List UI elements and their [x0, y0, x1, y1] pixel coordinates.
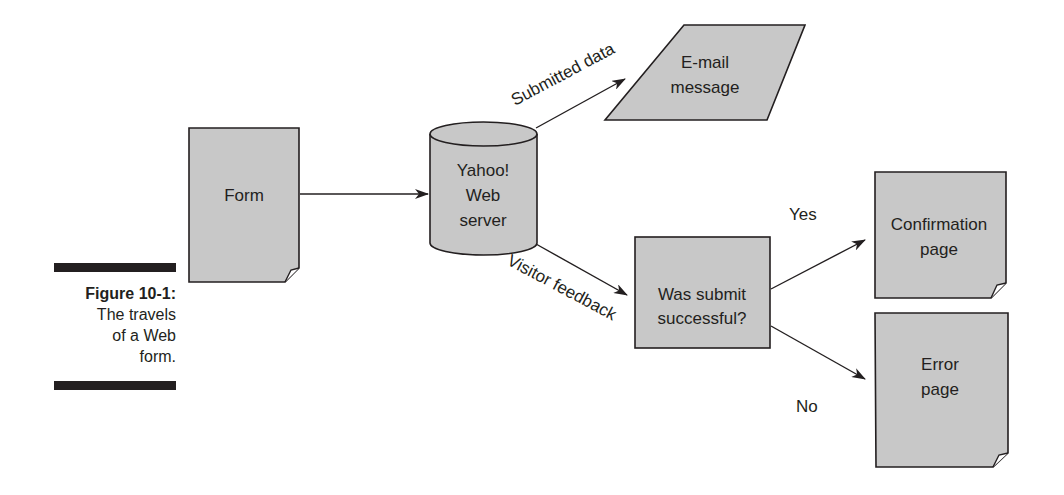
edge-label-submitted-data: Submitted data [508, 39, 618, 110]
server-node: Yahoo! Web server [430, 122, 537, 255]
server-label-line-2: Web [466, 186, 501, 205]
error-label-line-2: page [921, 380, 959, 399]
figure-caption: Figure 10-1: The travels of a Web form. [48, 263, 176, 390]
email-label-line-1: E-mail [681, 53, 729, 72]
caption-line-1: The travels [48, 304, 176, 325]
edge-label-no: No [796, 397, 818, 416]
email-label-line-2: message [671, 78, 740, 97]
server-label-line-3: server [459, 211, 507, 230]
decision-label-line-2: successful? [658, 309, 747, 328]
caption-top-rule [54, 263, 176, 272]
form-label: Form [224, 186, 264, 205]
flow-diagram: Form Yahoo! Web server Submitted data E-… [0, 0, 1064, 495]
edge-label-yes: Yes [789, 205, 817, 224]
edge-label-visitor-feedback: Visitor feedback [504, 251, 620, 325]
decision-node: Was submit successful? [635, 237, 770, 348]
error-page-node: Error page [875, 313, 1008, 467]
caption-line-3: form. [48, 346, 176, 367]
caption-bottom-rule [54, 381, 176, 390]
form-node: Form [189, 128, 299, 282]
confirmation-label-line-2: page [920, 240, 958, 259]
confirmation-label-line-1: Confirmation [891, 215, 987, 234]
figure-label: Figure 10-1: [48, 284, 176, 304]
confirmation-page-node: Confirmation page [875, 172, 1006, 298]
server-label-line-1: Yahoo! [457, 161, 510, 180]
email-node: E-mail message [605, 25, 805, 120]
caption-line-2: of a Web [48, 325, 176, 346]
decision-label-line-1: Was submit [658, 285, 746, 304]
error-label-line-1: Error [921, 355, 959, 374]
edge-decision-to-error [771, 326, 865, 379]
edge-decision-to-confirmation [771, 240, 865, 289]
